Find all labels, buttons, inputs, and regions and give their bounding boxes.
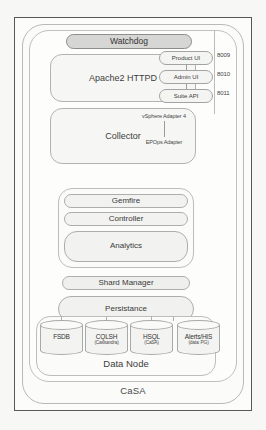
datastore-hsql-text: HSQL (CaSA) bbox=[130, 333, 173, 346]
endpoint-connector bbox=[186, 84, 187, 89]
service-controller-label: Controller bbox=[109, 215, 144, 224]
service-analytics-label: Analytics bbox=[110, 242, 142, 251]
adapter-epops-label: EPOps Adapter bbox=[126, 139, 202, 145]
datastore-fsdb-name: FSDB bbox=[40, 333, 83, 340]
datastore-cqlsh-text: CQLSH (Cassandra) bbox=[85, 333, 128, 346]
datastore-fsdb[interactable]: FSDB bbox=[40, 320, 83, 356]
port-label-admin-ui: 8010 bbox=[217, 71, 230, 77]
datastore-hsql-name: HSQL bbox=[130, 333, 173, 340]
endpoint-connector bbox=[186, 65, 187, 70]
shard-manager-label: Shard Manager bbox=[98, 279, 153, 288]
service-gemfire-label: Gemfire bbox=[112, 197, 140, 206]
datastore-cqlsh[interactable]: CQLSH (Cassandra) bbox=[85, 320, 128, 356]
port-label-product-ui: 8009 bbox=[217, 52, 230, 58]
endpoint-admin-ui[interactable]: Admin UI bbox=[159, 70, 213, 84]
datastore-alerts-his-text: Alerts/HIS (data: PG) bbox=[177, 333, 220, 346]
datastore-hsql-sub: (CaSA) bbox=[130, 340, 173, 346]
datastore-alerts-his-sub: (data: PG) bbox=[177, 340, 220, 346]
endpoint-suite-api-label: Suite API bbox=[174, 93, 199, 100]
datastore-cqlsh-sub: (Cassandra) bbox=[85, 340, 128, 346]
cylinder-top-icon bbox=[40, 320, 83, 330]
datastore-alerts-his[interactable]: Alerts/HIS (data: PG) bbox=[177, 320, 220, 356]
port-label-suite-api: 8011 bbox=[217, 90, 230, 96]
persistance-label: Persistance bbox=[105, 305, 147, 314]
endpoint-product-ui-label: Product UI bbox=[172, 55, 200, 62]
cylinder-top-icon bbox=[177, 320, 220, 330]
service-controller[interactable]: Controller bbox=[64, 212, 188, 226]
service-gemfire[interactable]: Gemfire bbox=[64, 194, 188, 208]
endpoint-product-ui[interactable]: Product UI bbox=[159, 51, 213, 65]
cylinder-top-icon bbox=[130, 320, 173, 330]
watchdog-label: Watchdog bbox=[110, 37, 148, 46]
service-analytics[interactable]: Analytics bbox=[64, 231, 188, 262]
endpoint-admin-ui-label: Admin UI bbox=[174, 74, 199, 81]
adapter-connector bbox=[164, 121, 165, 137]
datastore-fsdb-text: FSDB bbox=[40, 333, 83, 340]
datastore-alerts-his-name: Alerts/HIS bbox=[177, 333, 220, 340]
datastore-hsql[interactable]: HSQL (CaSA) bbox=[130, 320, 173, 356]
data-node-label: Data Node bbox=[36, 358, 216, 369]
endpoint-suite-api[interactable]: Suite API bbox=[159, 89, 213, 103]
casa-label: CaSA bbox=[23, 385, 243, 396]
store-connector bbox=[173, 316, 174, 321]
shard-manager-component[interactable]: Shard Manager bbox=[62, 276, 190, 290]
watchdog-component[interactable]: Watchdog bbox=[66, 34, 192, 49]
adapter-vsphere-label: vSphere Adapter 4 bbox=[126, 113, 202, 119]
datastore-cqlsh-name: CQLSH bbox=[85, 333, 128, 340]
cylinder-top-icon bbox=[85, 320, 128, 330]
